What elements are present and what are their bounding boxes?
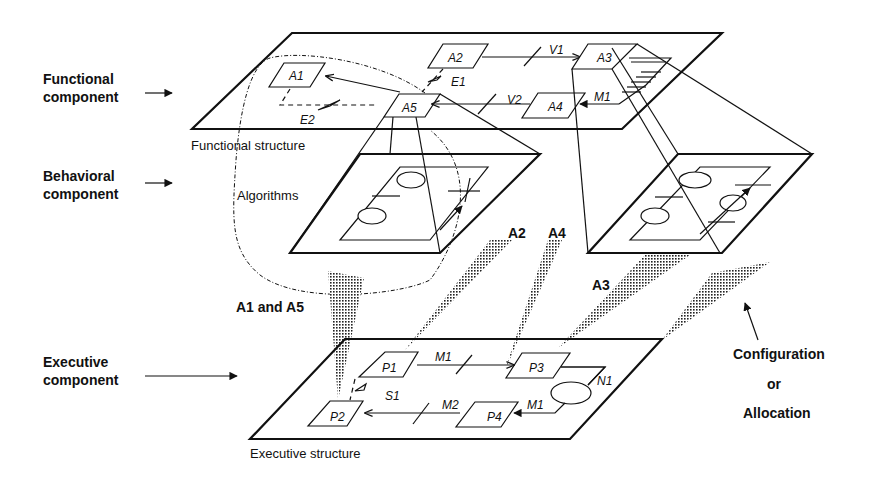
svg-text:Configuration: Configuration [733, 346, 825, 362]
executive-structure-caption: Executive structure [250, 446, 361, 461]
allocation-label-a2: A2 [508, 225, 526, 241]
node-P3[interactable]: P3 [506, 353, 570, 378]
allocation-wedge-a2 [405, 240, 512, 350]
svg-text:P4: P4 [487, 410, 502, 424]
behavioral-model-right [572, 44, 812, 253]
allocation-label-a3: A3 [592, 277, 610, 293]
svg-text:Functional: Functional [43, 71, 114, 87]
behavioral-model-left [290, 94, 540, 253]
functional-component-label: Functional component [43, 71, 172, 105]
node-A1[interactable]: A1 [269, 63, 325, 87]
node-P1[interactable]: P1 [359, 352, 418, 377]
architecture-diagram: Functional component Behavioral componen… [0, 0, 878, 483]
svg-text:A3: A3 [596, 51, 612, 65]
functional-structure-caption: Functional structure [191, 138, 305, 153]
allocation-label-a1a5: A1 and A5 [236, 299, 304, 315]
svg-text:component: component [43, 186, 119, 202]
node-A5[interactable]: A5 [384, 94, 440, 117]
link-E2-label: E2 [300, 113, 315, 127]
svg-text:P3: P3 [529, 361, 544, 375]
svg-text:Executive: Executive [43, 354, 109, 370]
signal-S1-icon [355, 384, 366, 391]
allocation-wedge-a4 [505, 240, 562, 370]
svg-text:or: or [767, 376, 782, 392]
behavioral-component-label: Behavioral component [43, 168, 172, 202]
svg-text:component: component [43, 89, 119, 105]
link-M1-label: M1 [435, 350, 452, 364]
link-M2-label: M2 [442, 398, 459, 412]
link-M1-func-label: M1 [594, 90, 611, 104]
link-V1-label: V1 [549, 43, 564, 57]
node-A2[interactable]: A2 [428, 44, 488, 68]
svg-text:A2: A2 [447, 51, 463, 65]
svg-text:component: component [43, 372, 119, 388]
link-N1-label: N1 [597, 374, 612, 388]
algorithms-caption: Algorithms [237, 188, 299, 203]
link-S1-label: S1 [385, 389, 400, 403]
svg-text:P1: P1 [382, 361, 397, 375]
allocation-label-a4: A4 [548, 225, 566, 241]
svg-text:A5: A5 [401, 101, 417, 115]
node-P2[interactable]: P2 [308, 401, 363, 426]
link-M1-net-label: M1 [527, 398, 544, 412]
svg-text:Allocation: Allocation [743, 405, 811, 421]
link-V2-label: V2 [507, 93, 522, 107]
arrow-icon [745, 303, 758, 340]
executive-component-label: Executive component [43, 354, 237, 388]
svg-text:Behavioral: Behavioral [43, 168, 115, 184]
allocation-wedge-a1a5 [328, 271, 364, 400]
link-E1-label: E1 [451, 75, 466, 89]
node-P4[interactable]: P4 [456, 402, 518, 427]
network-N1 [551, 382, 591, 404]
svg-text:A1: A1 [288, 69, 304, 83]
svg-text:P2: P2 [330, 410, 345, 424]
svg-text:A4: A4 [547, 100, 563, 114]
configuration-label: Configuration or Allocation [733, 346, 825, 421]
